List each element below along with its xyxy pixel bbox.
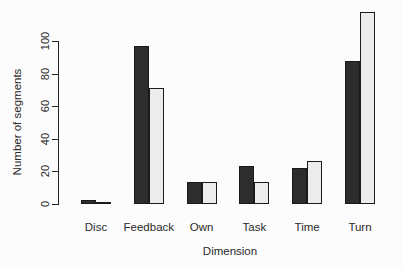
y-tick-mark [52, 171, 58, 172]
bar-chart-figure: Number of segments Dimension 02040608010… [0, 0, 402, 270]
bar-turn-dark [345, 61, 360, 204]
bar-task-dark [239, 166, 254, 203]
bar-own-dark [187, 182, 202, 203]
bar-disc-dark [81, 200, 96, 203]
x-axis-title: Dimension [170, 245, 290, 257]
bar-task-light [254, 182, 269, 203]
bar-time-light [307, 161, 322, 203]
y-axis-title: Number of segments [10, 42, 24, 202]
y-tick-mark [52, 74, 58, 75]
y-tick-mark [52, 204, 58, 205]
y-tick-mark [52, 139, 58, 140]
x-category-label-turn: Turn [325, 221, 395, 233]
bar-feedback-dark [134, 46, 149, 204]
bar-feedback-light [149, 88, 164, 203]
bar-time-dark [292, 168, 307, 204]
y-tick-mark [52, 106, 58, 107]
bar-own-light [202, 182, 217, 203]
bar-turn-light [360, 12, 375, 204]
y-tick-label: 100 [39, 21, 51, 61]
bar-disc-light [96, 202, 111, 204]
y-axis-line [58, 41, 59, 205]
y-tick-mark [52, 41, 58, 42]
